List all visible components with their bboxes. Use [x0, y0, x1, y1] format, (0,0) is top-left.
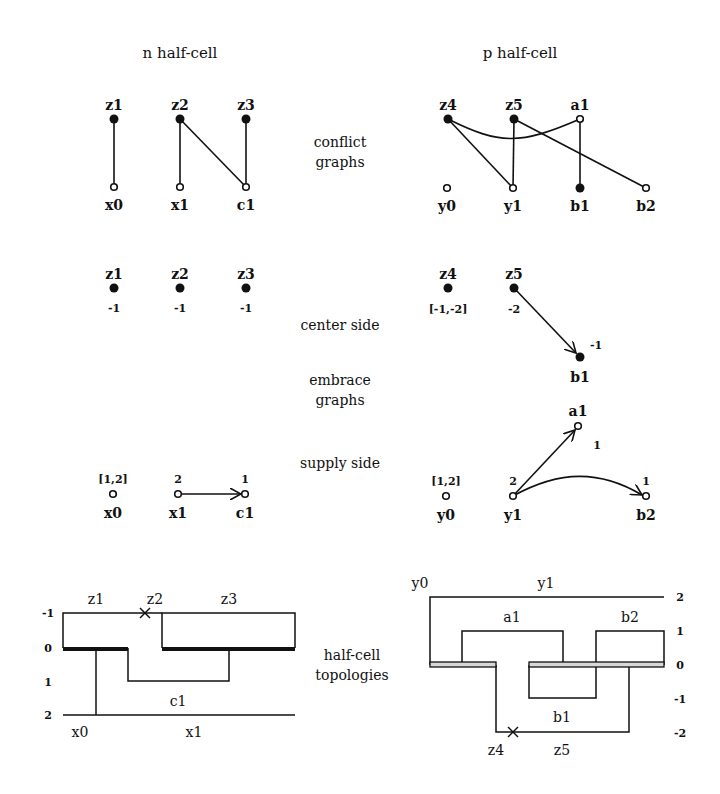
node-a1	[577, 116, 584, 123]
node-label: x0	[105, 197, 123, 213]
node-z4	[444, 284, 453, 293]
p-half-cell-header: p half-cell	[483, 44, 558, 62]
node-value: 2	[509, 475, 517, 488]
n-half-cell-topology: -1 0 1 2 z1 z2 z3 c1 x0 x1	[42, 591, 295, 740]
node-z2	[176, 115, 185, 124]
center-side-label: center side	[300, 317, 379, 333]
node-label: z2	[171, 97, 189, 113]
level-label: 1	[676, 625, 684, 638]
embrace-graphs-label-line1: embrace	[309, 372, 371, 388]
node-value: [-1,-2]	[429, 303, 468, 316]
node-label: x1	[171, 197, 189, 213]
node-value: -1	[108, 302, 120, 315]
level-label: 2	[44, 709, 52, 722]
conflict-graphs-label-line2: graphs	[315, 154, 364, 170]
level-label: -1	[42, 607, 54, 620]
node-y1	[510, 493, 517, 500]
half-cell-diagram: n half-cell p half-cell conflict graphs …	[0, 0, 720, 794]
node-x1	[177, 184, 184, 191]
node-label: x0	[104, 505, 122, 521]
n-half-cell-header: n half-cell	[143, 44, 218, 62]
node-y1	[510, 185, 517, 192]
level-label: 0	[44, 642, 52, 655]
node-x0	[110, 491, 117, 498]
net-label: z4	[488, 742, 504, 758]
node-b2	[643, 185, 650, 192]
node-label: z5	[505, 266, 523, 282]
node-b2	[643, 493, 650, 500]
node-label: y1	[503, 507, 522, 523]
net-label: z3	[221, 591, 237, 607]
net-label: x1	[186, 724, 203, 740]
node-label: b2	[636, 198, 656, 214]
node-value: -1	[590, 339, 602, 352]
node-label: z4	[439, 97, 457, 113]
node-value: -1	[174, 302, 186, 315]
p-conflict-graph: z4 z5 a1 y0 y1 b1 b2	[437, 97, 656, 214]
net-label: y0	[411, 575, 429, 591]
net-label: b2	[621, 609, 639, 625]
level-label: 1	[44, 676, 52, 689]
node-label: a1	[571, 97, 590, 113]
p-half-cell-topology: 2 1 0 -1 -2 y0 y1 a1 b2 b1 z4 z5	[411, 575, 687, 758]
net-label: a1	[503, 609, 520, 625]
embrace-graphs-label-line2: graphs	[315, 392, 364, 408]
node-b1	[576, 184, 585, 193]
node-z1	[110, 284, 119, 293]
n-supply-side-graph: [1,2] 2 1 x0 x1 c1	[98, 473, 254, 521]
node-a1	[575, 423, 582, 430]
node-label: z1	[105, 97, 123, 113]
node-label: z3	[237, 266, 255, 282]
node-label: z2	[171, 266, 189, 282]
node-value: 1	[593, 439, 601, 452]
net-label: c1	[170, 693, 187, 709]
node-value: [1,2]	[98, 473, 128, 486]
net-label: x0	[72, 724, 89, 740]
node-z1	[110, 115, 119, 124]
level-label: 2	[676, 591, 684, 604]
node-label: z3	[237, 97, 255, 113]
net-label: y1	[537, 575, 555, 591]
level-label: -1	[674, 693, 686, 706]
node-label: x1	[169, 505, 187, 521]
node-z5	[510, 284, 519, 293]
node-label: a1	[569, 403, 588, 419]
node-z5	[510, 115, 519, 124]
node-label: z1	[105, 266, 123, 282]
node-b1	[576, 353, 585, 362]
half-cell-topologies-label-line1: half-cell	[324, 647, 381, 663]
supply-side-label: supply side	[300, 455, 380, 471]
net-label: z5	[554, 742, 570, 758]
net-label: z1	[88, 591, 104, 607]
node-y0	[444, 185, 451, 192]
node-value: 1	[241, 473, 249, 486]
node-label: b1	[570, 198, 590, 214]
node-label: y0	[436, 507, 455, 523]
node-label: b1	[570, 369, 590, 385]
node-c1	[243, 184, 250, 191]
level-label: -2	[674, 727, 686, 740]
node-x0	[111, 184, 118, 191]
n-center-side-graph: z1 z2 z3 -1 -1 -1	[105, 266, 255, 315]
node-x1	[175, 491, 182, 498]
conflict-graphs-label-line1: conflict	[314, 134, 367, 150]
p-center-side-graph: z4 z5 b1 [-1,-2] -2 -1	[429, 266, 602, 385]
node-label: z5	[505, 97, 523, 113]
node-label: c1	[236, 505, 254, 521]
node-z4	[444, 115, 453, 124]
node-label: z4	[439, 266, 457, 282]
node-label: c1	[237, 197, 255, 213]
node-y0	[443, 493, 450, 500]
node-value: -1	[240, 302, 252, 315]
node-value: -2	[508, 303, 520, 316]
node-label: y1	[503, 198, 522, 214]
node-z2	[176, 284, 185, 293]
node-value: 1	[642, 475, 650, 488]
node-c1	[242, 491, 249, 498]
node-value: 2	[174, 473, 182, 486]
net-label: b1	[553, 709, 571, 725]
node-label: y0	[437, 198, 456, 214]
net-label: z2	[147, 591, 163, 607]
node-z3	[242, 115, 251, 124]
node-label: b2	[636, 507, 656, 523]
